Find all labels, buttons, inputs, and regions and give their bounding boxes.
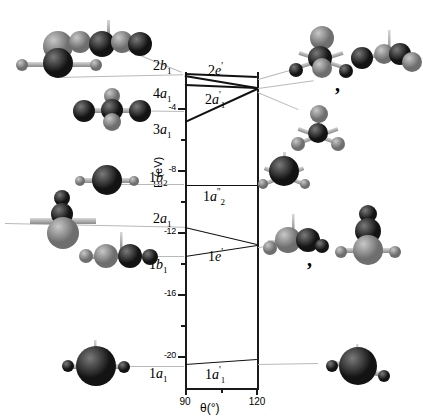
mo-label-1b2: 1b2 (149, 170, 168, 188)
x-tick-minor (221, 388, 223, 393)
orbital-image-1a1-left (58, 340, 134, 390)
mo-label-2a1-prime: 2a'1 (205, 89, 225, 109)
orbital-image-2a1-prime-right (285, 104, 353, 154)
mo-label-1e-prime: 1e' (208, 246, 223, 265)
mo-label-2b1: 2b1 (153, 58, 172, 76)
orbital-image-2e-right (284, 26, 358, 82)
y-tick-minor (181, 263, 186, 265)
orbital-image-2b1-top (68, 18, 150, 66)
y-tick-minor (181, 201, 186, 203)
mo-text: 2a'1 (205, 92, 225, 107)
y-tick-major (178, 294, 186, 296)
mo-text: 1a''2 (203, 189, 225, 204)
y-tick-major (178, 170, 186, 172)
mo-text: 2a1 (153, 211, 172, 226)
x-tick-major (185, 388, 187, 395)
y-tick-label: -20 (150, 350, 176, 360)
mo-label-1a2-dprime: 1a''2 (203, 186, 225, 206)
y-tick-minor (181, 139, 186, 141)
correlation-2a1-1ep (185, 227, 257, 245)
mo-text: 2e' (208, 63, 223, 78)
y-tick-major (178, 108, 186, 110)
mo-text: 1b2 (149, 170, 168, 185)
leader-line (258, 363, 318, 365)
mo-text: 1a'1 (205, 367, 225, 382)
mo-label-3a1: 3a1 (153, 122, 172, 140)
orbital-image-1a2-dprime-right (255, 152, 315, 196)
x-tick-major (256, 388, 258, 395)
y-tick-minor (181, 325, 186, 327)
orbital-image-4a1-left (72, 86, 154, 134)
x-tick-label: 120 (244, 396, 270, 407)
mo-label-2e-prime: 2e' (208, 60, 223, 79)
mo-text: 1a1 (149, 366, 168, 381)
y-axis-right (257, 72, 259, 390)
y-tick-major (178, 356, 186, 358)
mo-label-2a1: 2a1 (153, 211, 172, 229)
y-tick-label: -16 (150, 288, 176, 298)
mo-label-1a1: 1a1 (149, 366, 168, 384)
orbital-image-1b1-left (78, 230, 158, 278)
x-axis-title: θ(°) (200, 401, 219, 415)
mo-label-4a1: 4a1 (153, 86, 172, 104)
x-tick-label: 90 (172, 396, 198, 407)
walsh-diagram-figure: -4 -8 -12 -16 -20 E (eV) 90 120 θ(°) 2b1… (0, 0, 423, 420)
orbital-image-2e-right-2 (352, 28, 422, 82)
mo-text: 1e' (208, 249, 223, 264)
mo-text: 2b1 (153, 58, 172, 73)
mo-text: 4a1 (153, 86, 172, 101)
mo-label-1a1-prime: 1a'1 (205, 364, 225, 384)
orbital-image-1e-prime-right-2 (330, 204, 406, 266)
orbital-image-1a1-prime-right (322, 344, 396, 394)
y-tick-major (178, 232, 186, 234)
orbital-image-1e-prime-right (260, 214, 326, 264)
mo-text: 3a1 (153, 122, 172, 137)
